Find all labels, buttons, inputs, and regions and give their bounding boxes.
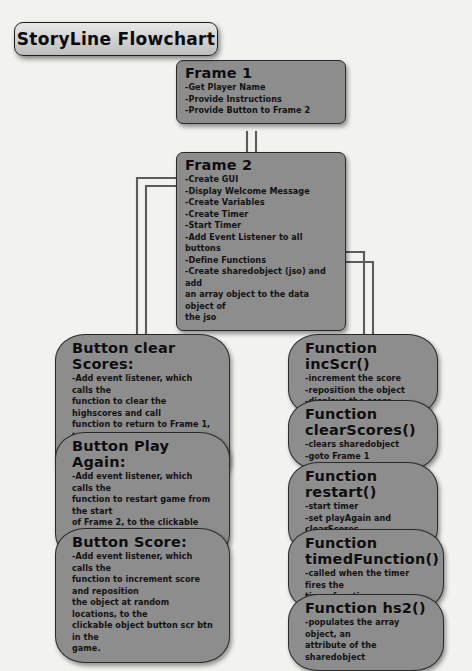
flowchart-title-banner: StoryLine Flowchart (14, 22, 218, 56)
node-line: the jso (185, 312, 338, 323)
node-line: -Start Timer (185, 220, 338, 231)
node-line: -clears sharedobject (305, 439, 423, 450)
node-function-hs2-lines: -populates the array object, an attribut… (305, 617, 429, 663)
node-button-clear-scores-title: Button clear Scores: (72, 340, 215, 372)
node-line: -Create Timer (185, 209, 338, 220)
node-frame-1-lines: -Get Player Name -Provide Instructions -… (185, 82, 338, 116)
node-line: -goto Frame 1 (305, 451, 423, 462)
node-frame-2-title: Frame 2 (185, 157, 338, 173)
node-function-timedfunction-title: Function timedFunction() (305, 535, 429, 567)
node-frame-1-title: Frame 1 (185, 65, 338, 81)
node-line: -Add event listener, which calls the (72, 373, 215, 396)
node-line: -Get Player Name (185, 82, 338, 93)
node-frame-2[interactable]: Frame 2 -Create GUI -Display Welcome Mes… (176, 152, 346, 331)
node-frame-2-lines: -Create GUI -Display Welcome Message -Cr… (185, 174, 338, 323)
node-function-clearscores[interactable]: Function clearScores() -clears sharedobj… (288, 400, 438, 470)
node-line: -Create GUI (185, 174, 338, 185)
node-line: -Create sharedobject (jso) and add (185, 266, 338, 289)
node-function-clearscores-title: Function clearScores() (305, 406, 423, 438)
wire-frame2-left-a (137, 178, 179, 340)
node-line: -Add Event Listener to all buttons (185, 232, 338, 255)
node-line: -Provide Instructions (185, 94, 338, 105)
node-line: -Create Variables (185, 197, 338, 208)
node-line: -called when the timer fires the (305, 568, 429, 591)
node-button-score[interactable]: Button Score: -Add event listener, which… (55, 528, 230, 663)
node-line: -Add event listener, which calls the (72, 551, 215, 574)
node-button-score-title: Button Score: (72, 534, 215, 550)
node-line: -increment the score (305, 373, 423, 384)
node-line: attribute of the sharedobject (305, 640, 429, 663)
node-button-play-again-title: Button Play Again: (72, 438, 215, 470)
node-line: game. (72, 643, 215, 654)
node-line: -populates the array object, an (305, 617, 429, 640)
node-function-hs2-title: Function hs2() (305, 600, 429, 616)
node-button-score-lines: -Add event listener, which calls the fun… (72, 551, 215, 654)
node-line: the object at random locations, to the (72, 597, 215, 620)
node-function-clearscores-lines: -clears sharedobject -goto Frame 1 (305, 439, 423, 462)
node-line: -Provide Button to Frame 2 (185, 105, 338, 116)
node-frame-1[interactable]: Frame 1 -Get Player Name -Provide Instru… (176, 60, 346, 124)
node-function-restart-title: Function restart() (305, 468, 423, 500)
node-line: function to restart game from the start (72, 494, 215, 517)
node-line: -reposition the object (305, 385, 423, 396)
page-title: StoryLine Flowchart (17, 29, 215, 49)
node-line: function to increment score and repositi… (72, 574, 215, 597)
node-line: -Display Welcome Message (185, 186, 338, 197)
node-line: -Define Functions (185, 255, 338, 266)
node-line: function to clear the highscores and cal… (72, 396, 215, 419)
node-line: -start timer (305, 501, 423, 512)
node-line: clickable object button scr btn in the (72, 620, 215, 643)
node-line: -Add event listener, which calls the (72, 471, 215, 494)
wire-frame2-left-b (146, 186, 179, 340)
node-line: an array object to the data object of (185, 289, 338, 312)
node-function-hs2[interactable]: Function hs2() -populates the array obje… (288, 594, 444, 671)
node-function-incscr-title: Function incScr() (305, 340, 423, 372)
